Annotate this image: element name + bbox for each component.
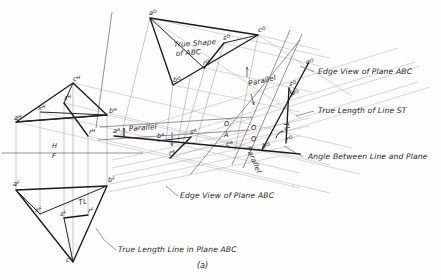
point-label-ba-auxiliary_view_a: bA bbox=[157, 132, 164, 140]
figure-caption: (a) bbox=[197, 261, 208, 270]
refline-oq-upper: O bbox=[251, 124, 256, 132]
true-shape-view-o bbox=[150, 18, 258, 85]
refline-oq-lower: Q bbox=[251, 135, 256, 143]
point-label-sh-top_view: sH bbox=[64, 94, 71, 102]
point-label-cf-front_view: cF bbox=[66, 256, 73, 264]
point-label-bq-secondary_view_q: bQ bbox=[262, 142, 270, 150]
point-label-so-true_shape_view_o: sO bbox=[223, 34, 230, 42]
point-label-ch-top_view: cH bbox=[73, 75, 81, 83]
point-label-bh-top_view: bH bbox=[109, 107, 117, 115]
annotation-parallel-aux: Parallel bbox=[129, 122, 158, 133]
leader-lines bbox=[96, 66, 314, 250]
refline-oa-upper: O bbox=[224, 120, 229, 128]
point-label-rh-top_view: rH bbox=[89, 128, 96, 136]
point-label-aa-auxiliary_view_a: aA bbox=[113, 127, 120, 135]
annotation-parallel-top: Parallel bbox=[247, 73, 276, 88]
point-label-sa-auxiliary_view_a: sA bbox=[190, 128, 197, 136]
refline-oa-lower: A bbox=[223, 131, 229, 139]
point-label-bf-front_view: bF bbox=[108, 176, 115, 184]
point-label-co-true_shape_view_o: cO bbox=[258, 26, 266, 34]
figure-canvas: cHaHbHxHsHrHaFbFcFxFsFrFaAbAcAsArAcQsQaQ… bbox=[0, 0, 441, 280]
refline-hf-lower: F bbox=[52, 152, 56, 160]
point-label-cq-secondary_view_q: cQ bbox=[306, 58, 314, 66]
point-label-bo-true_shape_view_o: bO bbox=[173, 76, 181, 84]
projectors-to-view-o bbox=[114, 18, 430, 158]
annotation-true-shape-2: of ABC bbox=[176, 47, 202, 58]
point-label-ao-true_shape_view_o: aO bbox=[149, 9, 157, 17]
annotation-edge-view-lower: Edge View of Plane ABC bbox=[180, 191, 275, 200]
annotation-angle-line-plane: Angle Between Line and Plane bbox=[307, 152, 428, 161]
annotation-tl-front: TL bbox=[78, 196, 88, 207]
annotation-true-length-st: True Length of Line ST bbox=[318, 106, 408, 115]
point-label-sf-front_view: sF bbox=[60, 210, 66, 218]
annotation-edge-view-right: Edge View of Plane ABC bbox=[318, 67, 413, 76]
annotation-true-length-line: True Length Line in Plane ABC bbox=[118, 245, 237, 254]
point-label-rq-secondary_view_q: rQ bbox=[286, 135, 293, 143]
point-label-af-front_view: aF bbox=[13, 180, 20, 188]
point-label-ah-top_view: aH bbox=[14, 114, 22, 122]
front-view-triangle-abc bbox=[16, 186, 107, 262]
point-label-aq-secondary_view_q: aQ bbox=[291, 89, 299, 97]
point-label-xh-top_view: xH bbox=[37, 104, 46, 112]
point-label-rf-front_view: rF bbox=[88, 207, 94, 215]
point-label-xf-front_view: xF bbox=[34, 206, 42, 214]
projectors-to-aux-a bbox=[16, 83, 360, 193]
refline-hf-upper: H bbox=[52, 142, 57, 150]
